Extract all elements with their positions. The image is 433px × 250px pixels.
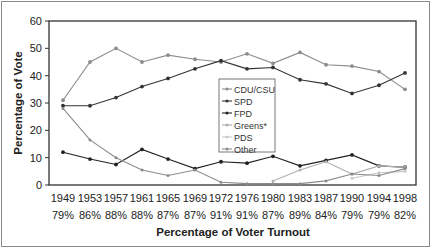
legend-label: SPD [234,97,253,107]
data-point [324,82,328,86]
legend-label: CDU/CSU [234,85,275,95]
data-point [88,104,92,108]
y-tick-label: 50 [30,42,42,54]
data-point [88,157,92,161]
data-point [166,77,170,81]
data-point [115,156,118,159]
data-point [194,168,197,171]
data-point [298,78,302,82]
legend-marker [226,148,229,151]
data-point [140,148,144,152]
data-point [404,167,407,170]
data-point [351,177,354,180]
line-chart: 0102030405060194979%195386%195788%196188… [0,0,433,250]
data-point [351,173,354,176]
legend-marker [226,112,229,115]
x-tick-label: 1969 [183,192,207,204]
turnout-label: 88% [131,209,153,221]
data-point [167,174,170,177]
turnout-label: 87% [157,209,179,221]
turnout-label: 79% [52,209,74,221]
data-point [378,171,381,174]
turnout-label: 82% [394,209,416,221]
data-point [298,51,302,55]
data-point [325,179,328,182]
data-point [404,170,407,173]
turnout-label: 79% [368,209,390,221]
legend-marker [226,124,229,127]
y-tick-label: 0 [36,179,42,191]
legend-marker [226,88,229,91]
x-tick-label: 1987 [314,192,338,204]
data-point [271,61,275,65]
legend-label: PDS [234,133,253,143]
y-tick-label: 30 [30,97,42,109]
data-point [350,92,354,96]
data-point [299,182,302,185]
data-point [89,138,92,141]
data-point [114,163,118,167]
x-tick-label: 1990 [340,192,364,204]
x-tick-label: 1994 [367,192,391,204]
data-point [299,168,302,171]
data-point [245,52,249,56]
data-point [61,150,65,154]
data-point [246,182,249,185]
x-axis-title: Percentage of Voter Turnout [156,226,310,238]
turnout-label: 79% [341,209,363,221]
data-point [193,67,197,71]
data-point [220,181,223,184]
turnout-label: 87% [184,209,206,221]
data-point [88,60,92,64]
data-point [403,87,407,91]
y-tick-label: 60 [30,15,42,27]
data-point [377,70,381,74]
data-point [271,66,275,70]
data-point [141,168,144,171]
data-point [166,157,170,161]
data-point [61,98,65,102]
data-point [378,174,381,177]
turnout-label: 86% [79,209,101,221]
data-point [350,64,354,68]
x-tick-label: 1965 [156,192,180,204]
x-tick-label: 1961 [130,192,154,204]
y-axis-title: Percentage of Vote [12,51,24,154]
data-point [166,53,170,57]
data-point [62,107,65,110]
turnout-label: 89% [289,209,311,221]
turnout-label: 91% [236,209,258,221]
legend-label: FPD [234,109,253,119]
x-tick-label: 1957 [104,192,128,204]
x-tick-label: 1976 [235,192,259,204]
y-tick-label: 10 [30,152,42,164]
turnout-label: 88% [105,209,127,221]
data-point [403,71,407,75]
turnout-label: 87% [262,209,284,221]
y-tick-label: 20 [30,124,42,136]
turnout-label: 84% [315,209,337,221]
data-point [350,153,354,157]
y-tick-label: 40 [30,70,42,82]
data-point [378,164,381,167]
legend-marker [226,100,229,103]
data-point [377,83,381,87]
data-point [272,182,275,185]
legend-marker [226,136,229,139]
data-point [140,85,144,89]
data-point [114,46,118,50]
data-point [193,57,197,61]
x-tick-label: 1972 [209,192,233,204]
x-tick-label: 1998 [393,192,417,204]
data-point [114,96,118,100]
x-tick-label: 1980 [261,192,285,204]
legend-label: Other [234,145,257,155]
data-point [271,154,275,158]
x-tick-label: 1983 [288,192,312,204]
data-point [324,63,328,67]
data-point [298,164,302,168]
data-point [272,179,275,182]
data-point [245,161,249,165]
x-tick-label: 1953 [78,192,102,204]
data-point [219,160,223,164]
